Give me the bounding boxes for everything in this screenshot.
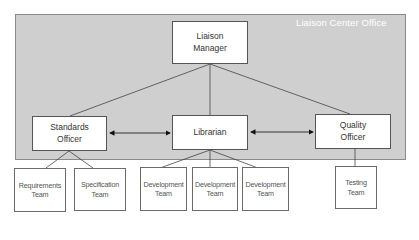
development-team-node: Development Team [242, 167, 289, 211]
librarian-node: Librarian [172, 115, 248, 150]
requirements-team-node: Requirements Team [14, 168, 66, 212]
team-label: Development Team [195, 180, 235, 199]
node-label: Liaison Manager [193, 31, 227, 53]
development-team-node: Development Team [140, 167, 187, 211]
node-label: Standards Officer [50, 122, 89, 144]
team-label: Specification Team [81, 180, 119, 199]
line-manager-quality [210, 64, 350, 114]
team-label: Development Team [245, 180, 285, 199]
team-label: Requirements Team [19, 181, 61, 200]
testing-team-node: Testing Team [335, 166, 377, 209]
node-label: Librarian [193, 127, 226, 138]
specification-team-node: Specification Team [74, 168, 126, 211]
development-team-node: Development Team [192, 167, 238, 211]
node-label: Quality Officer [340, 120, 366, 142]
line-manager-standards [70, 64, 210, 116]
quality-officer-node: Quality Officer [315, 114, 391, 149]
liaison-manager-node: Liaison Manager [172, 21, 248, 64]
team-label: Testing Team [345, 178, 366, 197]
standards-officer-node: Standards Officer [32, 116, 107, 151]
team-label: Development Team [143, 180, 183, 199]
